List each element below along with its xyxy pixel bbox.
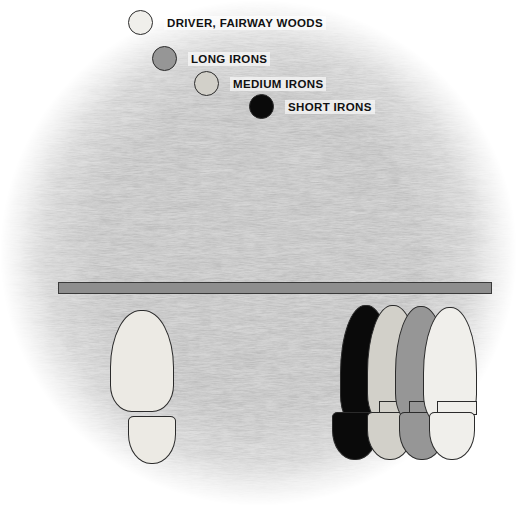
alignment-rod [58,282,492,294]
legend-label-long-irons: LONG IRONS [188,52,270,66]
front-foot-sole [110,310,174,412]
driver-fairway-woods-swatch-icon [128,10,153,35]
legend-item-long-irons: LONG IRONS [152,46,270,71]
legend-label-medium-irons: MEDIUM IRONS [230,77,326,91]
medium-irons-swatch-icon [194,71,219,96]
legend-label-driver-fairway-woods: DRIVER, FAIRWAY WOODS [164,16,326,30]
legend-item-medium-irons: MEDIUM IRONS [194,71,326,96]
short-irons-swatch-icon [249,94,274,119]
legend-label-short-irons: SHORT IRONS [285,100,375,114]
legend-item-driver-fairway-woods: DRIVER, FAIRWAY WOODS [128,10,326,35]
golf-stance-diagram: DRIVER, FAIRWAY WOODS LONG IRONS MEDIUM … [0,0,517,506]
long-irons-swatch-icon [152,46,177,71]
legend-item-short-irons: SHORT IRONS [249,94,375,119]
